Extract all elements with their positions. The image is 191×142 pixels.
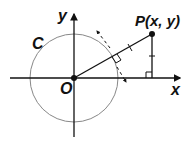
- diagram: y x O C P(x, y): [0, 0, 191, 142]
- segment-op: [74, 34, 152, 78]
- circle-label: C: [32, 36, 44, 52]
- x-axis-label: x: [171, 82, 180, 98]
- point-p: [149, 31, 155, 37]
- y-axis-label: y: [58, 8, 67, 24]
- point-p-label: P(x, y): [135, 13, 180, 28]
- origin-label: O: [60, 81, 72, 97]
- right-angle-foot: [146, 72, 152, 78]
